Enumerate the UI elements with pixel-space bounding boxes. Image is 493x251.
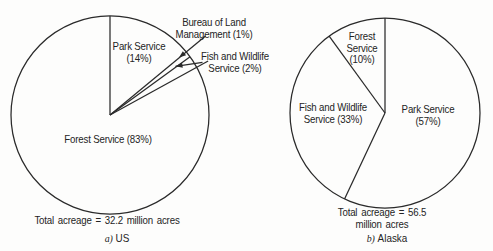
us-caption: a)US <box>105 232 130 244</box>
us-caption-text: US <box>116 232 130 244</box>
us-park-service-label: Park Service (14%) <box>113 41 166 64</box>
us-bureau-of-land-management-label: Bureau of Land Management (1%) <box>176 17 253 40</box>
alaska-total-acreage: Total acreage = 56.5 million acres <box>333 206 431 230</box>
alaska-caption: b)Alaska <box>367 232 408 244</box>
pie-us <box>11 16 209 214</box>
alaska-caption-text: Alaska <box>378 232 408 244</box>
us-fish-and-wildlife-label: Fish and Wildlife Service (2%) <box>201 51 269 74</box>
us-forest-service-label: Forest Service (83%) <box>64 134 151 146</box>
alaska-park-service-label: Park Service (57%) <box>399 104 456 127</box>
figure-dual-pie-chart: Park Service (14%) Bureau of Land Manage… <box>0 0 493 251</box>
alaska-fish-and-wildlife-label: Fish and Wildlife Service (33%) <box>299 102 367 125</box>
us-caption-prefix: a) <box>105 232 113 244</box>
alaska-caption-prefix: b) <box>367 232 375 244</box>
alaska-forest-service-label: Forest Service (10%) <box>346 31 377 66</box>
us-total-acreage: Total acreage = 32.2 million acres <box>34 214 179 226</box>
